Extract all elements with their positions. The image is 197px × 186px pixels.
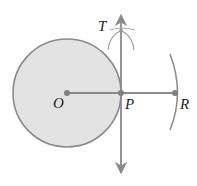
point-o <box>64 90 70 96</box>
point-r <box>172 90 178 96</box>
label-o: O <box>53 95 64 111</box>
label-r: R <box>179 96 189 112</box>
label-t: T <box>98 18 108 34</box>
tangent-construction-diagram: O P R T <box>0 0 197 186</box>
label-p: P <box>124 96 134 112</box>
point-p <box>118 90 124 96</box>
